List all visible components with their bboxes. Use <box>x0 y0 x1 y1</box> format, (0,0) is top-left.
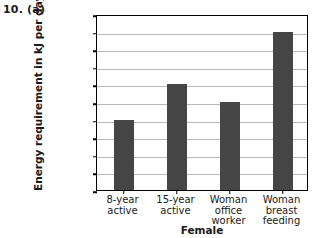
y-tick-mark <box>93 156 97 158</box>
x-category-label-line: Woman <box>252 195 312 206</box>
y-tick-mark <box>93 191 97 193</box>
y-tick-mark <box>93 50 97 52</box>
x-category-label: Womanbreastfeeding <box>252 195 312 227</box>
bar-slot <box>203 16 256 190</box>
y-tick-mark <box>93 174 97 176</box>
x-category-label-line: Woman <box>199 195 259 206</box>
y-tick-mark <box>93 103 97 105</box>
x-category-label: Womanofficeworker <box>199 195 259 227</box>
plot-area <box>96 15 308 191</box>
y-tick-mark <box>93 15 97 17</box>
bar-series <box>97 16 307 190</box>
y-axis-title: Energy requirement in kJ per day <box>32 11 44 191</box>
x-category-label: 15-yearactive <box>146 195 206 216</box>
bar-slot <box>256 16 309 190</box>
bar <box>167 84 187 190</box>
x-category-label: 8-yearactive <box>93 195 153 216</box>
bar <box>220 102 240 190</box>
bar-slot <box>150 16 203 190</box>
figure: 10. (a) Energy requirement in kJ per day… <box>0 0 315 238</box>
x-category-label-line: 8-year <box>93 195 153 206</box>
y-tick-mark <box>93 33 97 35</box>
bar-slot <box>97 16 150 190</box>
x-category-label-line: 15-year <box>146 195 206 206</box>
x-category-label-line: active <box>93 206 153 217</box>
x-axis-title: Female <box>96 224 308 236</box>
y-tick-mark <box>93 138 97 140</box>
y-tick-mark <box>93 121 97 123</box>
bar <box>273 32 293 190</box>
bar <box>114 120 134 190</box>
y-tick-mark <box>93 68 97 70</box>
x-category-label-line: active <box>146 206 206 217</box>
y-tick-mark <box>93 86 97 88</box>
